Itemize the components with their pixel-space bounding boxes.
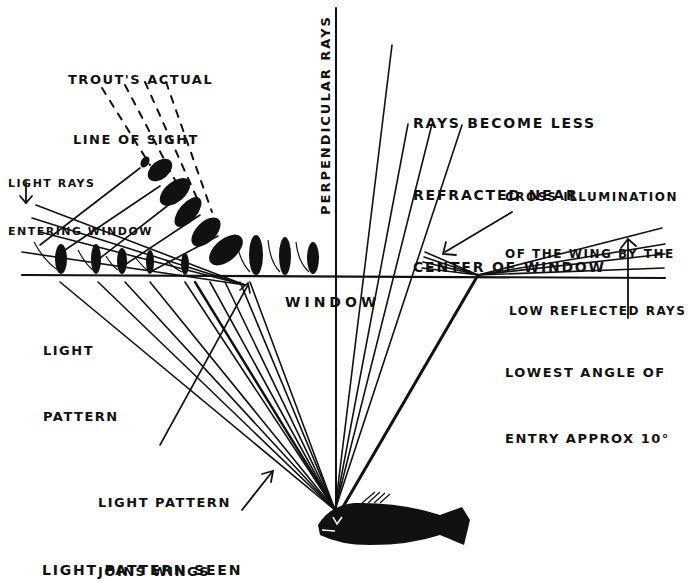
- label-window: WINDOW: [285, 290, 380, 314]
- label-light-pattern: LIGHT PATTERN: [43, 296, 119, 450]
- trout: [318, 492, 470, 545]
- label-light-rays-entering: LIGHT RAYS ENTERING WINDOW: [8, 144, 153, 256]
- label-cross-illumination: CROSS ILLUMINATION OF THE WING BY THE LO…: [505, 150, 686, 340]
- label-perpendicular-rays: PERPENDICULAR RAYS: [318, 15, 333, 215]
- label-lowest-angle: LOWEST ANGLE OF ENTRY APPROX 10°: [505, 318, 670, 472]
- apparent-flies: [139, 154, 249, 271]
- label-pattern-seen-mirror: LIGHT PATTERN SEEN IN A DIRECT LINE ON U…: [42, 510, 269, 583]
- pointer-joins-wings: [160, 285, 248, 445]
